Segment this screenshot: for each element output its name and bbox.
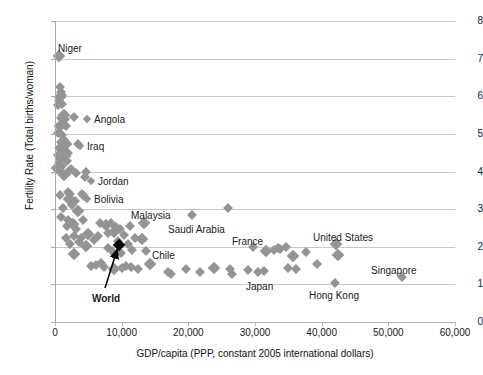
data-point [125, 221, 135, 231]
point-label-text: France [232, 236, 263, 247]
gridline-y-8 [55, 21, 455, 22]
point-label-text: Malaysia [131, 210, 170, 221]
x-tick-label-0: 0 [52, 328, 58, 338]
gridline-y-5 [55, 134, 455, 135]
data-point [78, 215, 88, 225]
x-tick-mark-20000 [188, 322, 189, 326]
scatter-chart: 012345678 010,00020,00030,00040,00050,00… [0, 0, 483, 375]
y-axis-line [55, 21, 56, 323]
data-point [223, 203, 233, 213]
y-tick-label-2: 2 [437, 242, 483, 252]
y-tick-label-6: 6 [437, 91, 483, 101]
point-label-world: World [92, 294, 120, 304]
data-point-angola [69, 112, 79, 122]
data-point-hong-kong [330, 278, 340, 288]
point-label-text: Bolivia [94, 194, 123, 205]
x-tick-mark-0 [55, 322, 56, 326]
gridline-y-4 [55, 172, 455, 173]
y-tick-mark-8 [51, 21, 55, 22]
data-point [312, 259, 322, 269]
y-axis-title: Fertility Rate (Total births/woman) [24, 11, 35, 261]
y-tick-mark-2 [51, 247, 55, 248]
diamond-icon [87, 177, 95, 185]
point-label-bolivia: Bolivia [84, 195, 123, 205]
y-tick-mark-7 [51, 59, 55, 60]
data-point [259, 266, 269, 276]
x-tick-label-10000: 10,000 [106, 328, 137, 338]
point-label-text: Jordan [98, 176, 129, 187]
point-label-united-states: United States [313, 233, 373, 243]
y-tick-mark-6 [51, 96, 55, 97]
point-label-text: United States [313, 232, 373, 243]
y-tick-label-8: 8 [437, 16, 483, 26]
x-tick-mark-60000 [455, 322, 456, 326]
point-label-text: Angola [94, 114, 125, 125]
point-label-text: Hong Kong [309, 290, 359, 301]
x-tick-label-30000: 30,000 [240, 328, 271, 338]
plot-area [55, 21, 455, 322]
point-label-japan: Japan [246, 282, 273, 292]
y-tick-label-0: 0 [437, 317, 483, 327]
x-tick-mark-10000 [122, 322, 123, 326]
y-tick-mark-5 [51, 134, 55, 135]
point-label-text: Japan [246, 281, 273, 292]
y-tick-mark-1 [51, 284, 55, 285]
data-point-saudi-arabia [187, 210, 197, 220]
y-tick-label-3: 3 [437, 204, 483, 214]
x-tick-label-60000: 60,000 [440, 328, 471, 338]
y-tick-mark-4 [51, 172, 55, 173]
y-tick-mark-3 [51, 209, 55, 210]
point-label-hong-kong: Hong Kong [309, 291, 359, 301]
data-point [243, 265, 253, 275]
x-tick-label-20000: 20,000 [173, 328, 204, 338]
data-point [287, 249, 300, 262]
data-point [195, 267, 205, 277]
x-tick-mark-40000 [322, 322, 323, 326]
point-label-malaysia: Malaysia [131, 211, 170, 221]
data-point [181, 264, 191, 274]
point-label-text: Saudi Arabia [168, 224, 225, 235]
data-point [332, 249, 345, 262]
y-tick-label-4: 4 [437, 167, 483, 177]
point-label-text: World [92, 293, 120, 304]
point-label-france: France [232, 237, 263, 247]
gridline-y-6 [55, 96, 455, 97]
y-tick-label-5: 5 [437, 129, 483, 139]
point-label-text: Singapore [371, 265, 417, 276]
point-label-angola: Angola [84, 115, 125, 125]
y-tick-label-1: 1 [437, 279, 483, 289]
point-label-niger: Niger [58, 44, 82, 54]
diamond-icon [83, 195, 91, 203]
gridline-y-7 [55, 59, 455, 60]
data-point [283, 263, 293, 273]
diamond-icon [76, 142, 84, 150]
x-tick-mark-50000 [388, 322, 389, 326]
data-point [291, 264, 301, 274]
point-label-jordan: Jordan [88, 177, 129, 187]
point-label-text: Iraq [87, 141, 104, 152]
y-tick-label-7: 7 [437, 54, 483, 64]
point-label-text: Niger [58, 43, 82, 54]
point-label-saudi-arabia: Saudi Arabia [168, 225, 225, 235]
data-point [208, 261, 221, 274]
point-label-iraq: Iraq [77, 142, 104, 152]
x-tick-label-40000: 40,000 [306, 328, 337, 338]
diamond-icon [83, 115, 91, 123]
gridline-y-3 [55, 209, 455, 210]
point-label-text: Chile [152, 250, 175, 261]
x-axis-title: GDP/capita (PPP, constant 2005 internati… [55, 348, 455, 359]
x-tick-label-50000: 50,000 [373, 328, 404, 338]
point-label-chile: Chile [152, 251, 175, 261]
data-point [301, 247, 311, 257]
x-tick-mark-30000 [255, 322, 256, 326]
point-label-singapore: Singapore [371, 266, 417, 276]
